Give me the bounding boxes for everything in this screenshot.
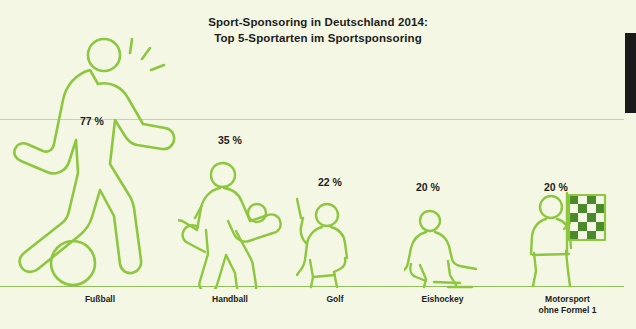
category-label-golf: Golf [280,294,390,305]
soccer-player-icon [8,37,183,289]
value-label-motorsport: 20 % [544,181,568,193]
category-label-fussball: Fußball [40,294,160,305]
title-line-1: Sport-Sponsoring in Deutschland 2014: [208,16,428,28]
chart-page: Sport-Sponsoring in Deutschland 2014: To… [0,0,636,329]
category-label-handball: Handball [170,294,290,305]
ice-hockey-player-icon [404,209,480,289]
motorsport-flag-icon [528,189,608,289]
category-label-eishockey: Eishockey [385,294,500,305]
handball-player-icon [178,161,283,289]
value-label-eishockey: 20 % [416,181,440,193]
value-label-fussball: 77 % [80,115,104,127]
category-label-motorsport: Motorsport ohne Formel 1 [505,294,630,316]
value-label-golf: 22 % [318,176,342,188]
golf-player-icon [296,197,366,289]
black-bar-marker [625,33,636,113]
right-edge-strip [624,0,636,329]
value-label-handball: 35 % [218,134,242,146]
